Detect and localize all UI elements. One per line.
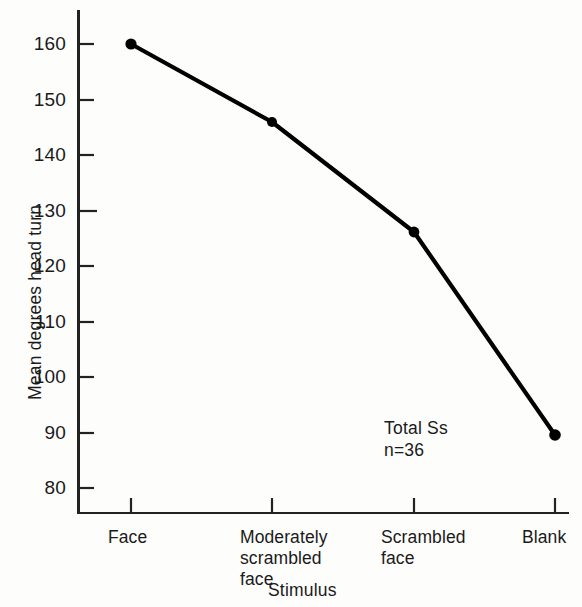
x-tick-label-scrambled-top: Scrambled xyxy=(381,527,466,548)
y-tick-label-140: 140 xyxy=(14,144,66,166)
data-point-markers xyxy=(125,38,560,440)
y-tick-label-160: 160 xyxy=(14,33,66,55)
y-axis-title: Mean degrees head turn xyxy=(25,205,46,400)
x-tick-label-scrambled: scrambled xyxy=(240,548,322,569)
x-tick-label-scrambled-face: face xyxy=(381,548,414,569)
data-point xyxy=(409,227,420,238)
data-point xyxy=(549,429,561,441)
annotation-total-ss: Total Ss xyxy=(384,418,448,439)
y-tick-label-80: 80 xyxy=(14,477,66,499)
data-point xyxy=(125,38,136,49)
data-point xyxy=(267,117,277,127)
data-series-line xyxy=(131,44,555,435)
x-tick-label-blank: Blank xyxy=(522,527,566,548)
x-axis-ticks xyxy=(131,498,555,513)
line-chart-plot xyxy=(0,0,582,607)
x-tick-label-moderately: Moderately xyxy=(240,527,328,548)
annotation-n-value: n=36 xyxy=(384,440,424,461)
y-axis-ticks xyxy=(79,44,98,488)
x-axis-title: Stimulus xyxy=(268,580,337,601)
y-tick-label-150: 150 xyxy=(14,89,66,111)
x-tick-label-face: Face xyxy=(108,527,147,548)
y-tick-label-90: 90 xyxy=(14,422,66,444)
chart-figure: 160 150 140 130 120 110 100 90 80 Mean d… xyxy=(0,0,582,607)
